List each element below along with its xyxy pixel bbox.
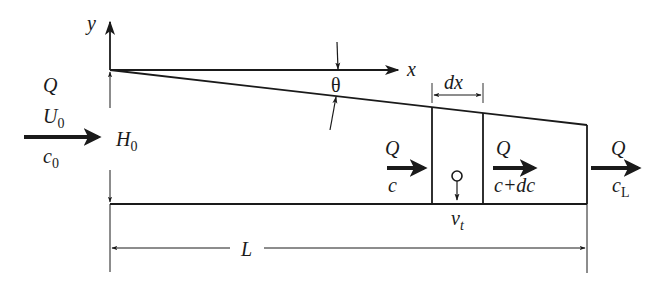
element-inflow-q-label: Q: [385, 137, 400, 159]
inlet-height-label: H0: [115, 128, 137, 154]
length-label: L: [240, 238, 252, 260]
element-outflow-q-label: Q: [496, 137, 511, 159]
settling-channel-diagram: y x θ H0 Q U0 c0 dx: [0, 0, 654, 295]
differential-element: dx vt: [432, 71, 483, 233]
outlet-flow: Q cL: [591, 137, 638, 200]
particle-icon: [452, 171, 462, 181]
x-axis: x: [110, 58, 416, 80]
element-inflow-c-label: c: [388, 174, 397, 196]
element-outflow-c-label: c+dc: [494, 174, 535, 196]
outlet-flow-label: Q: [611, 137, 626, 159]
inlet-velocity-label: U0: [43, 105, 64, 131]
element-outflow: Q c+dc: [493, 137, 535, 196]
y-axis-label: y: [85, 12, 96, 35]
inlet-concentration-label: c0: [43, 145, 59, 171]
y-axis: y: [85, 12, 110, 70]
angle-theta-label: θ: [331, 74, 341, 96]
angle-theta-indicator: θ: [330, 42, 341, 130]
settling-velocity-label: vt: [451, 207, 465, 233]
length-dimension: L: [112, 204, 587, 273]
x-axis-label: x: [406, 58, 416, 80]
outlet-concentration-label: cL: [612, 174, 629, 200]
inlet-flow-label: Q: [43, 74, 58, 96]
inlet-height-dimension: H0: [110, 72, 137, 272]
inlet-flow: Q U0 c0: [24, 74, 98, 171]
element-width-label: dx: [444, 71, 463, 93]
element-inflow: Q c: [385, 137, 424, 196]
